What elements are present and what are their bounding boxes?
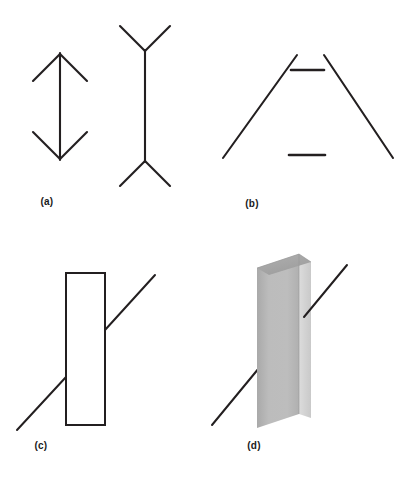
panel-poggendorff-3d: (d) bbox=[207, 240, 413, 480]
inward-arrow-fin-top-left bbox=[33, 54, 60, 81]
panel-label-c: (c) bbox=[0, 440, 144, 451]
poggendorff-flat-lower-oblique bbox=[17, 377, 66, 430]
ponzo-right-converging-line bbox=[324, 55, 393, 158]
panel-label-b: (b) bbox=[149, 198, 355, 209]
poggendorff-flat-upper-oblique bbox=[105, 275, 155, 330]
poggendorff-occluding-rectangle bbox=[66, 273, 105, 425]
outward-fin-bottom-left bbox=[120, 161, 145, 186]
outward-fin-top-right bbox=[145, 26, 170, 51]
inward-arrow-fin-bottom-left bbox=[33, 132, 60, 159]
illusions-figure: (a) (b) (c) bbox=[0, 0, 413, 480]
inward-arrow-fin-top-right bbox=[60, 54, 87, 81]
outward-fin-top-left bbox=[120, 26, 145, 51]
panel-ponzo: (b) bbox=[207, 0, 413, 240]
inward-arrow-fin-bottom-right bbox=[60, 132, 87, 159]
ponzo-left-converging-line bbox=[223, 55, 297, 158]
panel-label-d: (d) bbox=[151, 440, 357, 451]
outward-fin-bottom-right bbox=[145, 161, 170, 186]
block-front-face bbox=[257, 254, 299, 428]
panel-label-a: (a) bbox=[0, 196, 150, 207]
block-right-face bbox=[299, 254, 311, 418]
poggendorff-3d-lower-oblique bbox=[212, 368, 259, 425]
